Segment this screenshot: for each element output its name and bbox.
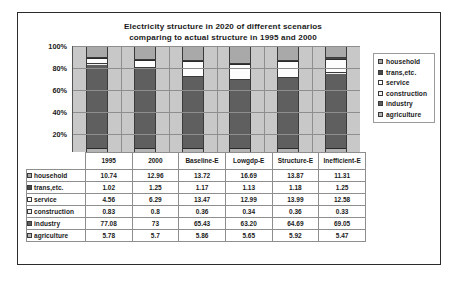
legend-swatch-icon <box>378 91 383 96</box>
legend-item[interactable]: household <box>378 58 431 65</box>
table-row-label: industry <box>34 220 60 227</box>
table-cell: 0.83 <box>85 206 132 218</box>
legend-item-label: household <box>386 58 420 65</box>
bar-segment-industry[interactable] <box>87 65 107 149</box>
stacked-bar[interactable] <box>134 46 156 155</box>
table-cell: 1.18 <box>272 182 319 194</box>
table-row: industry77.087365.4363.2064.6969.05 <box>27 218 366 230</box>
table-row-header: construction <box>27 206 86 218</box>
bar-slot <box>169 46 217 155</box>
legend-item-label: industry <box>386 100 413 107</box>
table-cell: 0.36 <box>179 206 226 218</box>
bar-segment-industry[interactable] <box>135 69 155 149</box>
data-table-head: 19952000Baseline-ELowgdp-EStructure-EIne… <box>27 153 366 170</box>
table-cell: 16.69 <box>225 170 272 182</box>
legend-item[interactable]: service <box>378 79 431 86</box>
table-row-header: agriculture <box>27 230 86 242</box>
table-column-header: Inefficient-E <box>319 153 366 170</box>
table-cell: 1.25 <box>132 182 179 194</box>
legend-item[interactable]: construction <box>378 90 431 97</box>
table-row-label: service <box>34 196 57 203</box>
table-row-label: trans,etc. <box>34 184 63 191</box>
table-cell: 63.20 <box>225 218 272 230</box>
table-cell: 0.34 <box>225 206 272 218</box>
y-axis-tick-label: 20% <box>52 130 67 139</box>
table-cell: 1.13 <box>225 182 272 194</box>
table-cell: 13.47 <box>179 194 226 206</box>
data-table-body: household10.7412.9613.7216.6913.8711.31t… <box>27 170 366 242</box>
stacked-bar[interactable] <box>229 46 251 155</box>
table-column-header: Structure-E <box>272 153 319 170</box>
table-cell: 11.31 <box>319 170 366 182</box>
table-corner-cell <box>27 153 86 170</box>
table-cell: 5.47 <box>319 230 366 242</box>
table-cell: 5.86 <box>179 230 226 242</box>
plot-area <box>72 46 360 156</box>
category-separator <box>121 46 122 155</box>
table-row: service4.566.2913.4712.9913.9912.58 <box>27 194 366 206</box>
table-row-label: agriculture <box>34 232 68 239</box>
y-axis-tick-label: 100% <box>48 42 67 51</box>
table-cell: 64.69 <box>272 218 319 230</box>
table-row-swatch-icon <box>27 185 32 190</box>
bar-segment-household[interactable] <box>135 46 155 60</box>
y-axis-tick-label: 60% <box>52 86 67 95</box>
table-cell: 73 <box>132 218 179 230</box>
legend-item-label: service <box>386 79 409 86</box>
table-cell: 13.72 <box>179 170 226 182</box>
table-column-header: 1995 <box>85 153 132 170</box>
legend-swatch-icon <box>378 101 383 106</box>
table-cell: 10.74 <box>85 170 132 182</box>
table-row: agriculture5.785.75.865.655.925.47 <box>27 230 366 242</box>
bar-segment-household[interactable] <box>183 46 203 61</box>
table-cell: 77.08 <box>85 218 132 230</box>
table-cell: 0.36 <box>272 206 319 218</box>
stacked-bar[interactable] <box>86 46 108 155</box>
table-cell: 65.43 <box>179 218 226 230</box>
bar-segment-household[interactable] <box>230 46 250 64</box>
bar-segment-household[interactable] <box>87 46 107 58</box>
legend-swatch-icon <box>378 59 383 64</box>
y-axis-tick-label: 80% <box>52 64 67 73</box>
stacked-bar[interactable] <box>182 46 204 155</box>
table-cell: 12.58 <box>319 194 366 206</box>
table-column-header: Baseline-E <box>179 153 226 170</box>
table-cell: 1.17 <box>179 182 226 194</box>
category-separator <box>264 46 265 155</box>
chart-title-line-2: comparing to actual structure in 1995 an… <box>58 32 388 43</box>
table-row-header: household <box>27 170 86 182</box>
chart-title: Electricity structure in 2020 of differe… <box>58 21 388 43</box>
table-row-label: household <box>34 172 67 179</box>
table-row-header: trans,etc. <box>27 182 86 194</box>
chart-object: Electricity structure in 2020 of differe… <box>17 12 441 265</box>
table-cell: 12.96 <box>132 170 179 182</box>
table-row-swatch-icon <box>27 173 32 178</box>
bar-segment-household[interactable] <box>326 46 346 58</box>
table-cell: 5.65 <box>225 230 272 242</box>
bar-segment-household[interactable] <box>278 46 298 61</box>
legend-swatch-icon <box>378 70 383 75</box>
category-separator <box>312 46 313 155</box>
bar-segment-service[interactable] <box>278 62 298 77</box>
table-row-swatch-icon <box>27 233 32 238</box>
table-column-header: Lowgdp-E <box>225 153 272 170</box>
bar-segment-service[interactable] <box>183 62 203 77</box>
legend-item-label: agriculture <box>386 111 421 118</box>
table-cell: 4.56 <box>85 194 132 206</box>
table-cell: 5.92 <box>272 230 319 242</box>
legend-item[interactable]: industry <box>378 100 431 107</box>
y-axis: 100%80%60%40%20%0% <box>26 46 70 156</box>
legend-item[interactable]: trans,etc. <box>378 69 431 76</box>
bar-segment-industry[interactable] <box>183 77 203 148</box>
bar-slot <box>264 46 312 155</box>
stacked-bar[interactable] <box>277 46 299 155</box>
table-row-label: construction <box>34 208 74 215</box>
chart-title-line-1: Electricity structure in 2020 of differe… <box>58 21 388 32</box>
legend-item[interactable]: agriculture <box>378 111 431 118</box>
y-axis-tick-label: 40% <box>52 108 67 117</box>
chart-legend: householdtrans,etc.serviceconstructionin… <box>373 53 435 123</box>
stacked-bar[interactable] <box>325 46 347 155</box>
data-table-header-row: 19952000Baseline-ELowgdp-EStructure-EIne… <box>27 153 366 170</box>
table-cell: 12.99 <box>225 194 272 206</box>
table-row-swatch-icon <box>27 221 32 226</box>
